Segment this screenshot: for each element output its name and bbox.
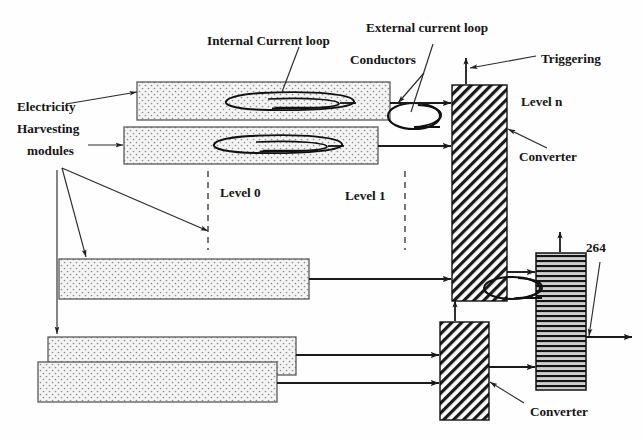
label-converter-bottom: Converter (530, 404, 588, 419)
label-converter-top: Converter (519, 149, 577, 164)
label-264: 264 (586, 240, 606, 255)
module-lower-row1 (59, 259, 309, 299)
label-harvesting: Harvesting (17, 121, 80, 136)
label-internal-current-loop: Internal Current loop (207, 33, 330, 48)
module-level0-row1 (137, 82, 390, 120)
converter-level-n (452, 85, 507, 301)
label-level-n: Level n (521, 94, 563, 109)
label-modules: modules (27, 143, 74, 158)
module-lower-row3 (38, 362, 277, 402)
label-level-1: Level 1 (345, 188, 386, 203)
label-conductors: Conductors (350, 52, 416, 67)
diagram-canvas: Internal Current loop External current l… (0, 0, 642, 442)
label-electricity: Electricity (17, 99, 76, 114)
converter-lower (440, 322, 489, 420)
diagram-svg: Internal Current loop External current l… (0, 0, 642, 442)
output-block-264 (536, 253, 586, 390)
label-external-current-loop: External current loop (366, 20, 488, 35)
label-level-0: Level 0 (220, 185, 261, 200)
label-triggering: Triggering (541, 51, 601, 66)
